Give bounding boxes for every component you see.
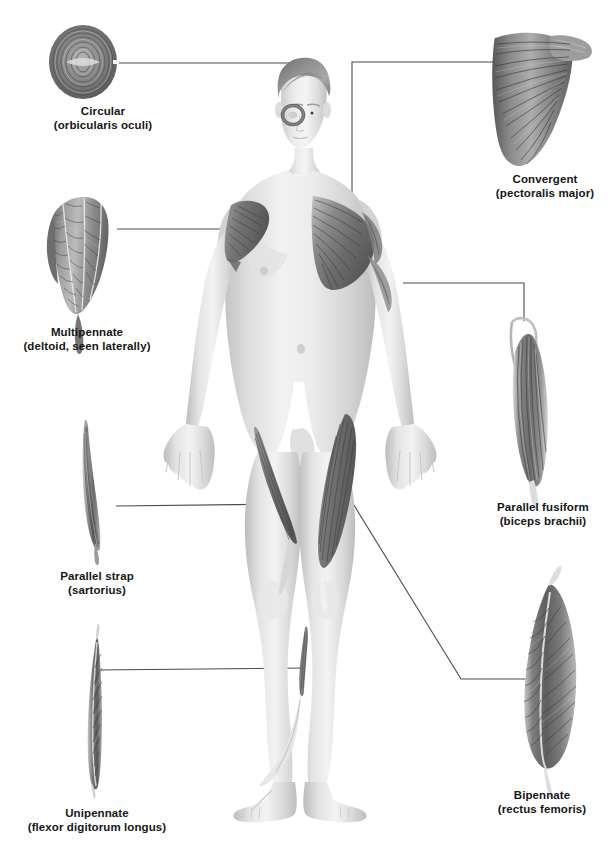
unipennate-specimen bbox=[88, 623, 102, 798]
human-body-figure bbox=[164, 58, 437, 823]
label-convergent-detail: (pectoralis major) bbox=[496, 186, 594, 200]
label-parallel-fusiform-detail: (biceps brachii) bbox=[497, 514, 589, 528]
label-parallel-strap-name: Parallel strap bbox=[60, 569, 134, 583]
label-bipennate-name: Bipennate bbox=[498, 788, 587, 802]
convergent-specimen bbox=[492, 33, 592, 166]
muscle-fascicle-diagram: Circular (orbicularis oculi) Convergent … bbox=[0, 0, 612, 853]
label-bipennate-detail: (rectus femoris) bbox=[498, 802, 587, 816]
label-parallel-fusiform-name: Parallel fusiform bbox=[497, 500, 589, 514]
label-circular-detail: (orbicularis oculi) bbox=[54, 118, 152, 132]
label-circular: Circular (orbicularis oculi) bbox=[54, 104, 152, 132]
label-multipennate: Multipennate (deltoid, seen laterally) bbox=[23, 325, 150, 353]
leader-bipennate bbox=[352, 502, 531, 679]
leader-convergent bbox=[352, 62, 494, 219]
label-convergent-name: Convergent bbox=[496, 172, 594, 186]
circular-specimen bbox=[49, 25, 119, 99]
label-circular-name: Circular bbox=[54, 104, 152, 118]
parallel-fusiform-specimen bbox=[511, 318, 548, 509]
label-multipennate-detail: (deltoid, seen laterally) bbox=[23, 339, 150, 353]
right-hand bbox=[385, 424, 436, 489]
bipennate-specimen bbox=[524, 566, 576, 798]
label-parallel-strap: Parallel strap (sartorius) bbox=[60, 569, 134, 597]
label-multipennate-name: Multipennate bbox=[23, 325, 150, 339]
label-bipennate: Bipennate (rectus femoris) bbox=[498, 788, 587, 816]
label-parallel-fusiform: Parallel fusiform (biceps brachii) bbox=[497, 500, 589, 528]
left-hand bbox=[164, 424, 215, 489]
leader-parallel-fusiform bbox=[403, 283, 524, 321]
right-ear bbox=[323, 102, 331, 118]
label-parallel-strap-detail: (sartorius) bbox=[60, 583, 134, 597]
parallel-strap-specimen bbox=[83, 420, 101, 565]
label-unipennate: Unipennate (flexor digitorum longus) bbox=[28, 806, 167, 834]
label-unipennate-name: Unipennate bbox=[28, 806, 167, 820]
label-unipennate-detail: (flexor digitorum longus) bbox=[28, 820, 167, 834]
label-convergent: Convergent (pectoralis major) bbox=[496, 172, 594, 200]
left-nipple bbox=[260, 267, 268, 275]
navel bbox=[297, 344, 305, 354]
right-pupil bbox=[311, 112, 314, 115]
